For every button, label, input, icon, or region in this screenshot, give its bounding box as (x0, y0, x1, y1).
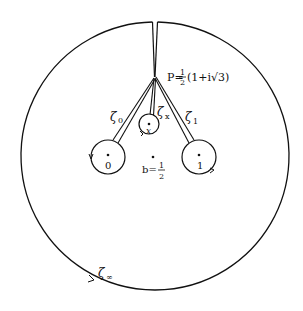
label-zeta-1: ζ (185, 110, 193, 124)
point-0-dot (107, 154, 110, 157)
arrow-icon-zeta-inf (88, 275, 94, 282)
point-1-dot (198, 154, 201, 157)
label-base-prefix: b= (142, 164, 157, 175)
label-zeta-inf: ζ (98, 266, 106, 280)
label-zeta-0: ζ (110, 110, 118, 124)
label-zeta-0-sub: 0 (118, 116, 123, 125)
label-P-frac-num: 1 (180, 68, 185, 77)
contour-diagram: P= 1 2 (1+i√3) ζ 0 ζ x ζ 1 ζ ∞ 0 x 1 b= … (0, 0, 303, 311)
outer-contour-zeta-inf (21, 22, 289, 290)
label-P-frac-den: 2 (180, 78, 185, 87)
label-P-rest: (1+i√3) (187, 71, 229, 84)
label-point-1: 1 (197, 160, 203, 171)
label-zeta-x: ζ (157, 105, 165, 119)
label-base-frac-den: 2 (159, 172, 164, 181)
point-x-dot (148, 123, 151, 126)
label-zeta-1-sub: 1 (193, 117, 198, 126)
arrow-icon-loop-1 (210, 168, 214, 173)
label-base-frac-num: 1 (159, 161, 164, 170)
base-point-dot (152, 156, 155, 159)
slit-right (155, 22, 158, 77)
label-zeta-x-sub: x (165, 112, 170, 121)
slit-left (153, 22, 155, 77)
label-point-x: x (146, 126, 151, 136)
label-point-0: 0 (105, 160, 111, 171)
label-zeta-inf-sub: ∞ (106, 273, 113, 282)
